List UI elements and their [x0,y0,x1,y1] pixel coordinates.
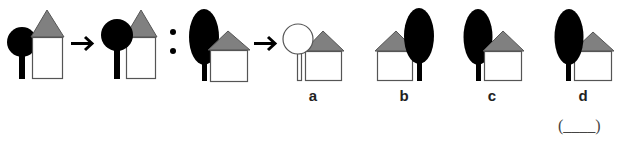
figure-1 [7,10,64,79]
option-b-figure[interactable] [375,8,434,81]
tree-trunk [114,50,120,79]
tree-crown-oval [404,8,434,64]
arrow-right-icon [71,37,92,50]
house-body [485,52,522,81]
analogy-puzzle-canvas [0,0,617,143]
option-c-figure[interactable] [464,9,525,81]
option-c-label[interactable]: c [488,87,496,104]
tree-crown-round [101,19,133,51]
house-roof [31,10,64,37]
tree-trunk-outline [298,54,302,81]
tree-crown-oval [555,9,584,65]
option-d-figure[interactable] [555,9,615,81]
analogy-colon-icon [170,29,176,54]
house-body [306,52,342,81]
house-body [127,38,156,79]
figure-3 [189,9,250,82]
tree-crown-round-white [283,24,313,54]
house-body [211,51,248,82]
answer-blank[interactable]: (____) [558,117,601,135]
option-a-figure[interactable] [283,24,344,81]
house-body [575,52,612,81]
house-body [378,52,413,81]
house-body [33,38,63,79]
arrow-right-icon [254,37,275,50]
option-a-label[interactable]: a [309,87,317,104]
option-d-label[interactable]: d [578,87,587,104]
option-b-label[interactable]: b [399,87,408,104]
figure-2 [101,10,157,79]
